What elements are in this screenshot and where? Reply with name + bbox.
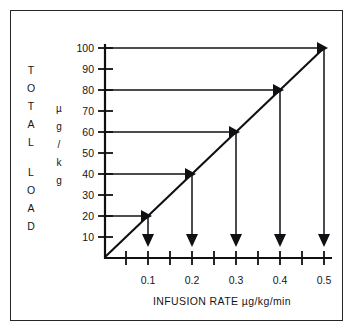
- x-tick-label-0.2: 0.2: [185, 274, 200, 286]
- y-title-char-2: T: [28, 100, 35, 112]
- y-unit-char-2: /: [58, 139, 61, 150]
- y-tick-label-100: 100: [76, 42, 94, 54]
- y-tick-label-50: 50: [82, 147, 94, 159]
- horizontal-readout-arrows: [106, 42, 328, 222]
- y-tick-label-60: 60: [82, 126, 94, 138]
- h-arrow-head-40: [185, 168, 196, 180]
- y-title-char-8: A: [27, 202, 34, 214]
- chart-canvas: 100 90 80 70 60 50 40 30 20 10 0.1: [0, 0, 353, 334]
- y-tick-label-90: 90: [82, 63, 94, 75]
- x-axis-title: INFUSION RATE µg/kg/min: [153, 295, 291, 307]
- v-arrow-head-0.5: [318, 234, 330, 247]
- y-tick-label-80: 80: [82, 84, 94, 96]
- h-arrow-head-100: [317, 42, 328, 54]
- y-title-char-4: L: [28, 136, 34, 148]
- y-tick-label-10: 10: [82, 231, 94, 243]
- y-unit-char-1: g: [56, 121, 62, 132]
- series-line-total-load: [105, 47, 325, 257]
- y-axis-title-total-load: T O T A L L O A D: [27, 64, 35, 232]
- h-arrow-head-80: [273, 84, 284, 96]
- y-title-char-1: O: [27, 82, 35, 94]
- x-tick-label-0.4: 0.4: [273, 274, 288, 286]
- x-axis-tick-labels: 0.1 0.2 0.3 0.4 0.5: [141, 274, 332, 286]
- v-arrow-head-0.2: [186, 234, 198, 247]
- y-tick-label-40: 40: [82, 168, 94, 180]
- y-title-char-0: T: [28, 64, 35, 76]
- v-arrow-head-0.4: [274, 234, 286, 247]
- h-arrow-head-20: [141, 210, 152, 222]
- y-title-char-6: L: [28, 166, 34, 178]
- y-tick-label-70: 70: [82, 105, 94, 117]
- y-unit-char-3: k: [57, 157, 63, 168]
- y-title-char-3: A: [27, 118, 34, 130]
- v-arrow-head-0.1: [142, 234, 154, 247]
- y-axis-tick-labels: 100 90 80 70 60 50 40 30 20 10: [76, 42, 94, 243]
- y-tick-label-20: 20: [82, 210, 94, 222]
- y-title-char-7: O: [27, 184, 35, 196]
- vertical-readout-arrows: [142, 48, 330, 247]
- y-title-char-9: D: [27, 220, 35, 232]
- x-tick-label-0.1: 0.1: [141, 274, 156, 286]
- figure-root: 100 90 80 70 60 50 40 30 20 10 0.1: [0, 0, 353, 334]
- y-tick-label-30: 30: [82, 189, 94, 201]
- y-axis-unit-ug-per-kg: µ g / k g: [56, 103, 62, 186]
- y-unit-char-0: µ: [56, 103, 62, 114]
- x-tick-label-0.5: 0.5: [317, 274, 332, 286]
- v-arrow-head-0.3: [230, 234, 242, 247]
- h-arrow-head-60: [229, 126, 240, 138]
- y-unit-char-4: g: [56, 175, 62, 186]
- x-tick-label-0.3: 0.3: [229, 274, 244, 286]
